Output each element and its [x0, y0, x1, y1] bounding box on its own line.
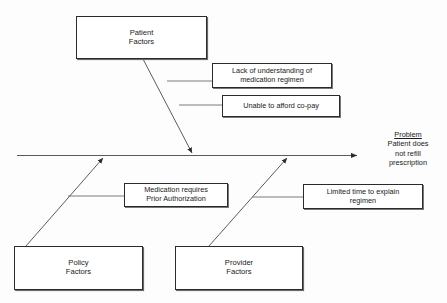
cause-label-unable-to-afford-copay: Unable to afford co-pay: [240, 102, 322, 111]
category-label-policy: Policy Factors: [63, 259, 94, 277]
problem-title: Problem: [371, 130, 445, 139]
cause-box-unable-to-afford-copay[interactable]: Unable to afford co-pay: [222, 95, 340, 117]
rib-policy: [26, 158, 103, 246]
cause-box-limited-time[interactable]: Limited time to explain regimen: [303, 184, 423, 209]
cause-label-limited-time: Limited time to explain regimen: [324, 188, 403, 205]
cause-label-prior-authorization: Medication requires Prior Authorization: [141, 186, 211, 203]
category-box-policy-factors[interactable]: Policy Factors: [14, 246, 143, 290]
category-label-patient: Patient Factors: [126, 29, 157, 47]
fishbone-diagram: Patient Factors Policy Factors Provider …: [0, 0, 447, 303]
problem-statement: Problem Patient does not refill prescrip…: [371, 130, 445, 167]
cause-box-lack-of-understanding[interactable]: Lack of understanding of medication regi…: [212, 63, 332, 88]
category-box-provider-factors[interactable]: Provider Factors: [175, 246, 303, 290]
cause-label-lack-of-understanding: Lack of understanding of medication regi…: [229, 67, 315, 84]
rib-patient: [143, 59, 192, 153]
problem-text: Patient does not refill prescription: [371, 139, 445, 167]
category-label-provider: Provider Factors: [222, 259, 256, 277]
cause-box-prior-authorization[interactable]: Medication requires Prior Authorization: [124, 183, 228, 207]
category-box-patient-factors[interactable]: Patient Factors: [76, 16, 207, 59]
